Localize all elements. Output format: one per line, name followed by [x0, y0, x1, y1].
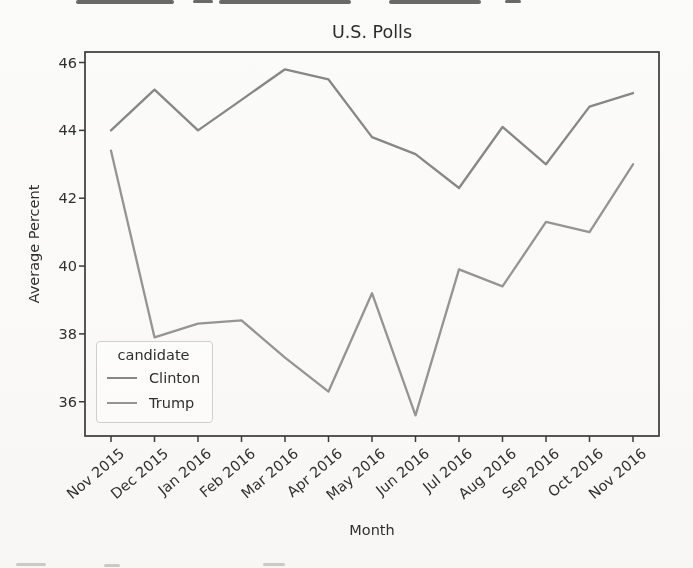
- y-tick-label: 40: [0, 256, 77, 276]
- legend-line-swatch-icon: [107, 377, 137, 379]
- y-tick-label: 46: [0, 53, 77, 73]
- legend-entry-trump: Trump: [107, 390, 200, 415]
- y-tick-label: 38: [0, 324, 77, 344]
- series-line-clinton: [111, 69, 633, 188]
- legend-title: candidate: [107, 347, 200, 363]
- y-tick-label: 36: [0, 392, 77, 412]
- book-page-photo: U.S. Polls Average Percent 363840424446 …: [0, 0, 693, 568]
- line-chart-figure: U.S. Polls Average Percent 363840424446 …: [0, 0, 693, 568]
- legend: candidate ClintonTrump: [96, 341, 213, 423]
- legend-entries: ClintonTrump: [107, 365, 200, 415]
- legend-label: Trump: [149, 395, 194, 411]
- legend-line-swatch-icon: [107, 402, 137, 404]
- y-tick-label: 42: [0, 188, 77, 208]
- x-axis-label: Month: [85, 522, 659, 538]
- legend-entry-clinton: Clinton: [107, 365, 200, 390]
- legend-label: Clinton: [149, 370, 200, 386]
- y-tick-label: 44: [0, 120, 77, 140]
